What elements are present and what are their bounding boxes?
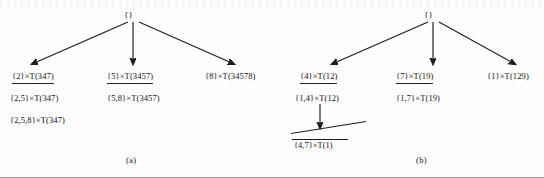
panel-b-level1-node-3: {1}×T(129) xyxy=(487,71,529,82)
panel-b-pruned-node-label: {4,7}×T(1) xyxy=(294,140,333,150)
panel-a: {} {2}×T(347) {5}×T(3457) {8}×T(34578) {… xyxy=(0,0,272,178)
figure-bottom-rule xyxy=(0,177,544,178)
panel-a-level1-node-2: {5}×T(3457) xyxy=(107,71,153,84)
panel-b-level2-node-2: {1,7}×T(19) xyxy=(396,93,440,104)
panel-a-level1-node-1: {2}×T(347) xyxy=(12,71,54,84)
panel-b: {} {4}×T(12) {7}×T(19) {1}×T(129) {1,4}×… xyxy=(272,0,544,178)
panel-a-edges xyxy=(0,0,272,178)
panel-b-level2-node-1: {1,4}×T(12) xyxy=(295,93,339,104)
panel-a-root-node: {} xyxy=(124,10,133,21)
panel-b-caption: (b) xyxy=(416,155,427,165)
panel-a-level1-node-3: {8}×T(34578) xyxy=(205,71,256,82)
panel-a-level2-node-2: {5,8}×T(3457) xyxy=(107,93,160,104)
panel-b-pruned-node: {4,7}×T(1) xyxy=(294,134,333,152)
panel-a-caption: (a) xyxy=(126,155,136,165)
strikethrough-horizontal-line xyxy=(292,139,348,140)
figure-container: {} {2}×T(347) {5}×T(3457) {8}×T(34578) {… xyxy=(0,0,544,178)
panel-a-level3-node-1: {2,5,8}×T(347) xyxy=(10,115,65,126)
strikethrough-diagonal-line xyxy=(291,121,366,134)
panel-b-level1-node-1: {4}×T(12) xyxy=(300,71,337,84)
panel-b-level1-node-2: {7}×T(19) xyxy=(396,71,433,84)
panel-b-root-node: {} xyxy=(424,10,433,21)
panel-a-level2-node-1: {2,5}×T(347) xyxy=(10,93,58,104)
